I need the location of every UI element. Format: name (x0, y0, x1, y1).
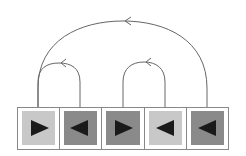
arc-small-right (123, 62, 165, 107)
arc-small-left (38, 63, 80, 107)
arc-diagram (0, 0, 246, 156)
